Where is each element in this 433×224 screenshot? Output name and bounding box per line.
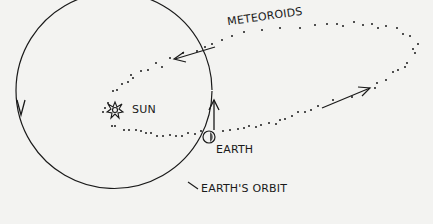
orbit-diagram: METEOROIDS SUN EARTH EARTH'S ORBIT	[0, 0, 433, 224]
orbit-label-leader	[188, 182, 198, 189]
earths-orbit-label: EARTH'S ORBIT	[201, 182, 287, 195]
meteoroid-arrow-lower-icon	[322, 87, 370, 108]
meteoroid-stream	[102, 21, 419, 137]
sun-label: SUN	[132, 103, 156, 116]
sun-icon	[107, 102, 123, 118]
earth-label: EARTH	[216, 143, 253, 156]
earth-orbit	[16, 0, 212, 189]
earth-icon	[203, 131, 215, 143]
meteoroid-arrow-upper-icon	[174, 47, 215, 62]
